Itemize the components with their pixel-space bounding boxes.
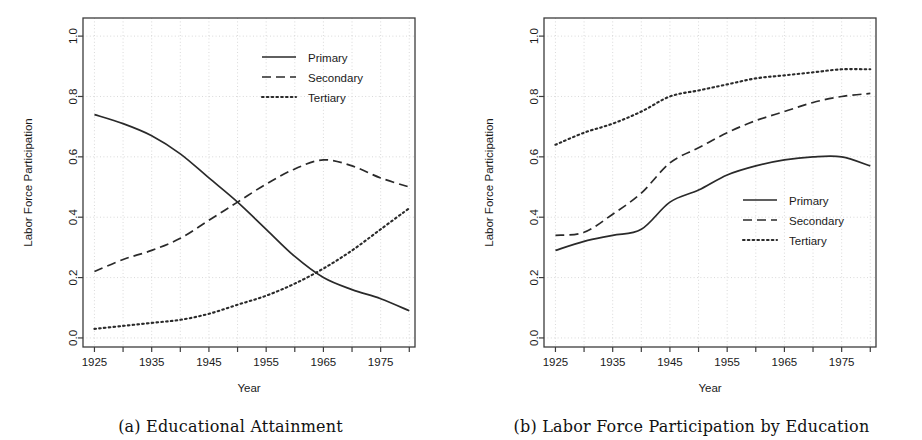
panel-a-educational-attainment: 1925193519451955196519750.00.20.40.60.81… (0, 0, 461, 440)
x-tick-label: 1965 (311, 356, 337, 368)
caption-panel-b: (b) Labor Force Participation by Educati… (461, 417, 922, 436)
x-axis-title: Year (698, 382, 721, 394)
y-tick-label: 0.2 (67, 270, 79, 286)
x-axis-title: Year (237, 382, 260, 394)
caption-panel-a: (a) Educational Attainment (0, 417, 461, 436)
y-tick-label: 0.0 (67, 330, 79, 346)
legend-label-primary: Primary (308, 52, 348, 64)
x-tick-label: 1935 (139, 356, 165, 368)
legend-label-secondary: Secondary (789, 215, 844, 227)
plot-b-svg: 1925193519451955196519750.00.20.40.60.81… (461, 0, 922, 400)
legend-label-tertiary: Tertiary (308, 92, 346, 104)
plot-a-svg: 1925193519451955196519750.00.20.40.60.81… (0, 0, 461, 400)
panel-b-labor-force-participation: 1925193519451955196519750.00.20.40.60.81… (461, 0, 922, 440)
x-tick-label: 1945 (196, 356, 222, 368)
x-tick-label: 1975 (829, 356, 855, 368)
x-tick-label: 1965 (772, 356, 798, 368)
y-tick-label: 0.2 (528, 270, 540, 286)
legend-label-primary: Primary (789, 195, 829, 207)
y-tick-label: 1.0 (67, 28, 79, 44)
series-line-tertiary (555, 69, 870, 145)
y-tick-label: 0.4 (528, 209, 540, 226)
series-line-primary (94, 115, 409, 311)
x-tick-label: 1925 (543, 356, 569, 368)
y-tick-label: 0.6 (528, 149, 540, 165)
y-axis-title: Labor Force Participation (22, 118, 34, 246)
series-line-tertiary (94, 208, 409, 329)
y-tick-label: 0.8 (528, 88, 540, 104)
x-tick-label: 1975 (368, 356, 394, 368)
figure-two-panel-lineplots: 1925193519451955196519750.00.20.40.60.81… (0, 0, 922, 440)
legend-panel-b: PrimarySecondaryTertiary (743, 195, 844, 247)
x-tick-label: 1925 (82, 356, 108, 368)
y-tick-label: 0.8 (67, 88, 79, 104)
x-tick-label: 1945 (657, 356, 683, 368)
x-tick-label: 1955 (714, 356, 740, 368)
legend-label-secondary: Secondary (308, 72, 363, 84)
y-tick-label: 1.0 (528, 28, 540, 44)
legend-panel-a: PrimarySecondaryTertiary (262, 52, 363, 104)
y-tick-label: 0.0 (528, 330, 540, 346)
x-tick-label: 1935 (600, 356, 626, 368)
x-tick-label: 1955 (253, 356, 279, 368)
y-tick-label: 0.6 (67, 149, 79, 165)
y-axis-title: Labor Force Participation (483, 118, 495, 246)
legend-label-tertiary: Tertiary (789, 235, 827, 247)
y-tick-label: 0.4 (67, 209, 79, 226)
